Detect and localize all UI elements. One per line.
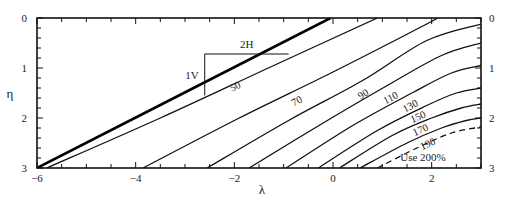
plot-frame [37, 18, 481, 168]
y-tick-label: 2 [22, 112, 28, 124]
x-tick-label: −4 [130, 172, 142, 184]
contour-curves [37, 18, 481, 168]
curve-label: 190 [418, 136, 437, 152]
y-tick-label: 0 [22, 12, 28, 24]
right-y-tick-label: 2 [489, 112, 495, 124]
curve-label: 110 [381, 89, 400, 106]
slope-horizontal-label: 2H [240, 38, 254, 50]
right-y-tick-label: 0 [489, 12, 495, 24]
y-tick-label: 1 [22, 62, 28, 74]
right-y-tick-label: 1 [489, 62, 495, 74]
x-tick-label: −6 [31, 172, 43, 184]
x-axis-title: λ [259, 182, 266, 197]
right-y-tick-label: 3 [489, 162, 495, 174]
curve-50 [47, 18, 378, 168]
chart: −6−4−20200112233 507090110130150170190 2… [0, 0, 507, 202]
x-tick-label: −2 [228, 172, 240, 184]
x-tick-label: 2 [429, 172, 435, 184]
y-axis-title: η [7, 86, 14, 101]
x-tick-label: 0 [330, 172, 336, 184]
curve-label: 70 [290, 94, 304, 109]
use-200-annotation: Use 200% [400, 151, 446, 163]
y-tick-label: 3 [22, 162, 28, 174]
curve-label: 90 [356, 87, 371, 102]
slope-vertical-label: 1V [185, 69, 199, 81]
curve-110 [249, 43, 481, 168]
